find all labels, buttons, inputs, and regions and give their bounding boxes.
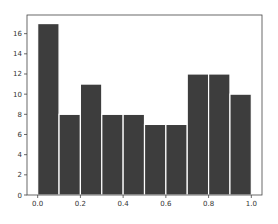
y-tick-label: 8 bbox=[18, 111, 22, 119]
y-tick-label: 10 bbox=[13, 91, 22, 99]
histogram-bar bbox=[102, 114, 123, 195]
histogram-bar bbox=[187, 74, 208, 195]
y-tick-label: 4 bbox=[18, 151, 23, 159]
histogram-bar bbox=[145, 124, 166, 195]
histogram-bar bbox=[38, 24, 59, 195]
histogram-bar bbox=[80, 84, 101, 195]
y-tick-label: 14 bbox=[13, 50, 22, 58]
x-tick-label: 0.6 bbox=[160, 200, 172, 208]
y-tick-label: 16 bbox=[13, 30, 22, 38]
x-tick-label: 0.4 bbox=[118, 200, 130, 208]
histogram-chart: 0.00.20.40.60.81.0 0246810121416 bbox=[0, 0, 278, 224]
x-axis: 0.00.20.40.60.81.0 bbox=[32, 195, 257, 208]
bars-group bbox=[38, 24, 252, 195]
histogram-bar bbox=[166, 124, 187, 195]
histogram-bar bbox=[123, 114, 144, 195]
x-tick-label: 0.8 bbox=[203, 200, 214, 208]
histogram-bar bbox=[209, 74, 230, 195]
histogram-bar bbox=[230, 94, 251, 195]
x-tick-label: 1.0 bbox=[246, 200, 257, 208]
x-tick-label: 0.2 bbox=[75, 200, 86, 208]
y-tick-label: 6 bbox=[18, 131, 23, 139]
y-tick-label: 2 bbox=[18, 171, 22, 179]
y-tick-label: 0 bbox=[18, 192, 22, 200]
x-tick-label: 0.0 bbox=[32, 200, 43, 208]
y-tick-label: 12 bbox=[13, 70, 22, 78]
histogram-bar bbox=[59, 114, 80, 195]
y-axis: 0246810121416 bbox=[13, 30, 27, 199]
